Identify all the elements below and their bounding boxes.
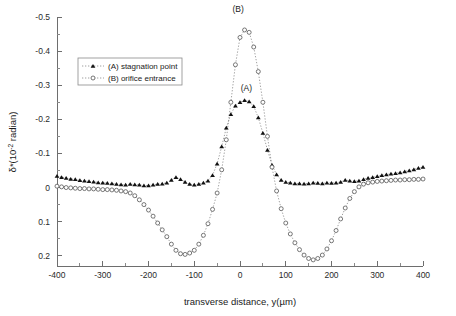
- x-tick-label: 400: [416, 270, 430, 280]
- data-point-marker: [334, 181, 339, 185]
- data-point-marker: [169, 242, 173, 246]
- data-point-marker: [114, 182, 119, 186]
- data-point-marker: [55, 184, 59, 188]
- data-point-marker: [238, 35, 242, 39]
- data-point-marker: [206, 179, 211, 183]
- data-point-marker: [82, 179, 87, 183]
- data-point-marker: [357, 179, 362, 183]
- data-point-marker: [192, 183, 197, 187]
- data-point-marker: [210, 173, 215, 177]
- data-point-marker: [69, 186, 73, 190]
- data-point-marker: [384, 179, 388, 183]
- data-point-marker: [366, 181, 370, 185]
- data-point-marker: [315, 181, 320, 185]
- data-point-marker: [279, 178, 284, 182]
- plot-frame: [57, 17, 423, 266]
- data-point-marker: [283, 180, 288, 184]
- data-point-marker: [343, 178, 348, 182]
- data-point-marker: [238, 100, 243, 104]
- data-point-marker: [87, 187, 91, 191]
- x-tick-label: 100: [279, 270, 293, 280]
- data-point-marker: [169, 178, 174, 182]
- data-point-marker: [412, 177, 416, 181]
- data-point-marker: [197, 242, 201, 246]
- data-point-marker: [279, 207, 283, 211]
- data-point-marker: [288, 232, 292, 236]
- data-point-marker: [105, 188, 109, 192]
- data-point-marker: [123, 183, 128, 187]
- data-point-marker: [325, 181, 330, 185]
- x-tick-label: 300: [370, 270, 384, 280]
- data-point-marker: [224, 138, 228, 142]
- data-point-marker: [220, 168, 224, 172]
- data-point-marker: [147, 208, 151, 212]
- data-point-marker: [233, 104, 238, 108]
- data-point-marker: [375, 174, 380, 178]
- data-point-marker: [371, 180, 375, 184]
- data-point-marker: [101, 188, 105, 192]
- x-axis-tick-labels: -400-300-200-1000100200300400: [48, 270, 430, 280]
- data-point-marker: [284, 221, 288, 225]
- data-point-marker: [215, 162, 220, 166]
- data-point-marker: [192, 248, 196, 252]
- y-axis-title-group: δ*(10-2 radian): [7, 112, 18, 173]
- data-point-marker: [320, 253, 324, 257]
- data-point-marker: [96, 187, 100, 191]
- data-point-marker: [110, 188, 114, 192]
- x-tick-label: 0: [238, 270, 243, 280]
- data-point-marker: [260, 131, 265, 135]
- data-point-marker: [183, 252, 187, 256]
- data-point-marker: [362, 182, 366, 186]
- data-point-marker: [119, 189, 123, 193]
- data-point-marker: [219, 145, 224, 149]
- data-point-marker: [403, 178, 407, 182]
- y-tick-label: -0.2: [35, 114, 50, 124]
- data-point-marker: [64, 186, 68, 190]
- chart-figure: -400-300-200-1000100200300400 -0.5-0.4-0…: [0, 0, 456, 316]
- data-point-marker: [110, 181, 115, 185]
- data-point-marker: [233, 63, 237, 67]
- data-point-marker: [73, 177, 78, 181]
- data-point-marker: [251, 104, 256, 108]
- data-point-marker: [201, 233, 205, 237]
- data-point-marker: [151, 214, 155, 218]
- y-tick-label: 0: [45, 183, 50, 193]
- data-point-marker: [339, 217, 343, 221]
- data-point-marker: [302, 182, 307, 186]
- x-tick-label: -400: [48, 270, 65, 280]
- data-point-marker: [265, 134, 269, 138]
- data-point-marker: [293, 181, 298, 185]
- data-point-marker: [389, 172, 394, 176]
- data-point-marker: [114, 188, 118, 192]
- data-point-marker: [334, 229, 338, 233]
- data-point-marker: [307, 256, 311, 260]
- data-point-marker: [261, 100, 265, 104]
- data-point-marker: [297, 248, 301, 252]
- data-point-marker: [206, 222, 210, 226]
- data-point-marker: [398, 178, 402, 182]
- data-point-marker: [416, 166, 421, 170]
- curve-annotations: (A)(B): [232, 4, 252, 93]
- scatter-plot: -400-300-200-1000100200300400 -0.5-0.4-0…: [0, 0, 456, 316]
- x-tick-label: -300: [94, 270, 111, 280]
- data-point-marker: [164, 181, 169, 185]
- data-point-marker: [188, 251, 192, 255]
- data-point-marker: [384, 173, 389, 177]
- data-point-marker: [133, 194, 137, 198]
- data-point-marker: [398, 170, 403, 174]
- data-point-marker: [201, 181, 206, 185]
- data-point-marker: [247, 100, 252, 104]
- chart-legend[interactable]: (A) stagnation point(B) orifice entrance: [78, 58, 182, 85]
- legend-label: (A) stagnation point: [108, 62, 178, 71]
- data-point-marker: [338, 180, 343, 184]
- data-point-marker: [252, 45, 256, 49]
- data-point-marker: [366, 176, 371, 180]
- annotation-b: (B): [232, 4, 244, 14]
- y-axis-title: δ*(10-2 radian): [7, 112, 18, 173]
- data-point-marker: [151, 183, 156, 187]
- data-point-marker: [229, 100, 233, 104]
- data-point-marker: [275, 189, 279, 193]
- data-point-marker: [243, 28, 247, 32]
- x-tick-label: -100: [186, 270, 203, 280]
- data-point-marker: [352, 190, 356, 194]
